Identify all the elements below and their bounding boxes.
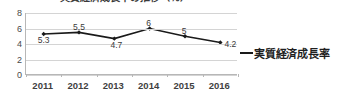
x-axis-tick-mark (167, 74, 168, 77)
y-gridline (26, 44, 237, 45)
chart-screenshot: 実質経済成長率の推移（％） 02468 20112012201320142015… (0, 0, 344, 102)
x-axis-tick-mark (61, 74, 62, 77)
y-gridline (26, 29, 237, 30)
y-axis-tick-label: 2 (17, 55, 22, 65)
y-gridline (26, 13, 237, 14)
x-axis-tick-mark (203, 74, 204, 77)
y-axis-tick-label: 0 (17, 70, 22, 80)
x-axis-tick-label: 2012 (67, 80, 88, 91)
x-axis-tick-label: 2014 (138, 80, 159, 91)
x-axis-tick-mark (26, 74, 27, 77)
plot-area: 02468 (25, 13, 237, 75)
chart-title: 実質経済成長率の推移（％） (0, 0, 250, 3)
legend-label: 実質経済成長率 (254, 45, 330, 61)
y-axis-tick-label: 8 (17, 8, 22, 18)
x-axis-tick-label: 2015 (173, 80, 194, 91)
x-axis-tick-mark (238, 74, 239, 77)
y-axis-tick-label: 6 (17, 24, 22, 34)
y-gridline (26, 60, 237, 61)
x-axis-tick-mark (132, 74, 133, 77)
data-point-label: 5 (182, 26, 187, 36)
legend-line-swatch-icon (240, 52, 253, 54)
x-axis-tick-label: 2013 (103, 80, 124, 91)
data-point-label: 5.3 (38, 35, 50, 45)
data-point-label: 4.2 (224, 39, 236, 49)
x-axis-tick-mark (97, 74, 98, 77)
y-axis-tick-label: 4 (17, 39, 22, 49)
data-point-label: 6 (146, 18, 151, 28)
x-axis-tick-label: 2016 (209, 80, 230, 91)
data-point-label: 5.5 (73, 22, 85, 32)
chart-legend: 実質経済成長率 (240, 45, 330, 61)
x-axis-tick-label: 2011 (32, 80, 53, 91)
data-point-label: 4.7 (110, 40, 122, 50)
